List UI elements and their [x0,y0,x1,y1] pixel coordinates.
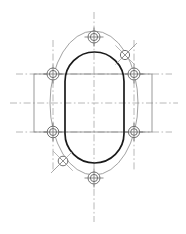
hole-bottom-center[interactable] [85,169,104,188]
technical-drawing-svg [0,0,186,234]
obround-outline [65,52,124,163]
hole-left-upper[interactable] [44,65,63,84]
cad-drawing-canvas [0,0,186,234]
hole-upper-right[interactable] [115,45,134,64]
hole-left-lower[interactable] [44,123,63,142]
hole-right-lower[interactable] [125,123,143,141]
hole-top-center[interactable] [85,28,104,47]
obround-outline-layer [65,52,124,163]
hole-right-upper[interactable] [125,65,144,84]
